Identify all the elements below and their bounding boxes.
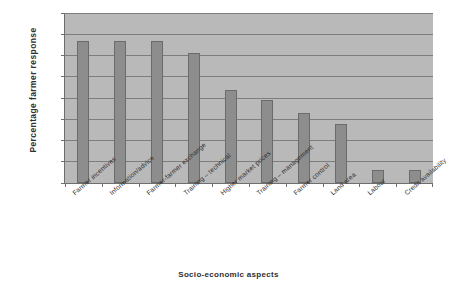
x-axis-tick-mark — [175, 183, 176, 187]
gridline — [65, 13, 433, 14]
y-axis-tick-mark — [61, 98, 65, 99]
x-axis-tick-mark — [432, 183, 433, 187]
y-axis-tick-mark — [61, 34, 65, 35]
x-axis-tick-mark — [139, 183, 140, 187]
y-axis-tick-mark — [61, 55, 65, 56]
x-axis-tick-mark — [102, 183, 103, 187]
bar — [335, 124, 347, 184]
plot-area: 01020304050607080 — [64, 13, 433, 184]
y-axis-tick-mark — [61, 161, 65, 162]
bar — [188, 53, 200, 183]
x-axis-tick-mark — [286, 183, 287, 187]
plot-inner: 01020304050607080 — [65, 13, 433, 183]
y-axis-title: Percentage farmer response — [28, 0, 38, 185]
y-axis-tick-mark — [61, 119, 65, 120]
x-axis-tick-mark — [396, 183, 397, 187]
bar — [225, 90, 237, 184]
x-axis-tick-mark — [212, 183, 213, 187]
bar — [261, 100, 273, 183]
y-axis-tick-mark — [61, 76, 65, 77]
x-axis-tick-mark — [65, 183, 66, 187]
bar-chart-figure: Percentage farmer response 0102030405060… — [0, 0, 457, 295]
x-axis-tick-mark — [359, 183, 360, 187]
x-axis-tick-mark — [249, 183, 250, 187]
gridline — [65, 34, 433, 35]
bar — [151, 41, 163, 183]
x-axis-tick-mark — [323, 183, 324, 187]
y-axis-tick-mark — [61, 13, 65, 14]
x-axis-title: Socio-economic aspects — [0, 270, 457, 279]
bar — [77, 41, 89, 183]
bar — [114, 41, 126, 183]
y-axis-tick-mark — [61, 140, 65, 141]
